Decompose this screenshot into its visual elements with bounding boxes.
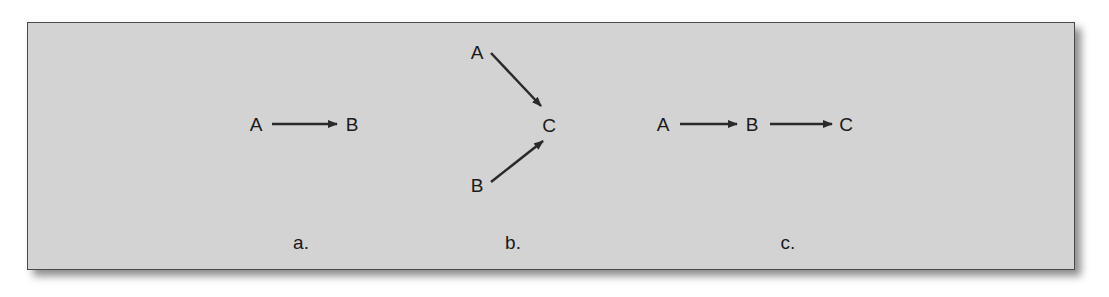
node-c-A: A [657, 115, 670, 134]
arrow-b-A-to-C [491, 53, 541, 106]
node-a-A: A [250, 115, 263, 134]
node-a-B: B [346, 115, 359, 134]
node-c-C: C [839, 115, 853, 134]
caption-b: b. [505, 233, 521, 252]
node-b-C: C [542, 116, 556, 135]
node-c-B: B [746, 115, 759, 134]
caption-a: a. [293, 233, 309, 252]
arrows-layer [0, 0, 1109, 297]
arrow-b-B-to-C [491, 141, 543, 182]
caption-c: c. [781, 233, 796, 252]
node-b-A: A [471, 43, 484, 62]
node-b-B: B [471, 176, 484, 195]
